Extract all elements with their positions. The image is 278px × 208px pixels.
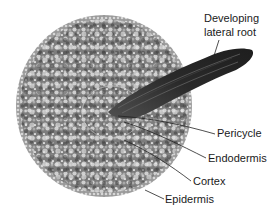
- label-pericycle: Pericycle: [217, 127, 262, 140]
- label-cortex: Cortex: [193, 175, 225, 188]
- label-epidermis: Epidermis: [165, 193, 214, 206]
- root-cross-section-figure: Developing lateral root Pericycle Endode…: [0, 0, 278, 208]
- leader-line-epidermis: [145, 190, 164, 199]
- label-endodermis: Endodermis: [208, 152, 267, 165]
- root-body: [16, 15, 192, 197]
- label-developing: Developing: [204, 12, 259, 25]
- label-lateral-root: lateral root: [204, 26, 256, 39]
